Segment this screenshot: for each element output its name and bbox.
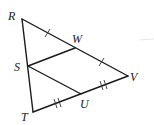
segment-SU — [28, 66, 81, 94]
label-T: T — [21, 110, 29, 124]
label-U: U — [80, 97, 90, 111]
artifact-line — [140, 39, 154, 40]
segment-RT — [22, 19, 33, 112]
label-R: R — [7, 9, 16, 23]
label-W: W — [72, 32, 83, 46]
segment-SW — [28, 48, 75, 66]
label-S: S — [14, 60, 20, 74]
triangle-diagram: R W S V U T — [0, 0, 154, 125]
label-V: V — [130, 70, 139, 84]
